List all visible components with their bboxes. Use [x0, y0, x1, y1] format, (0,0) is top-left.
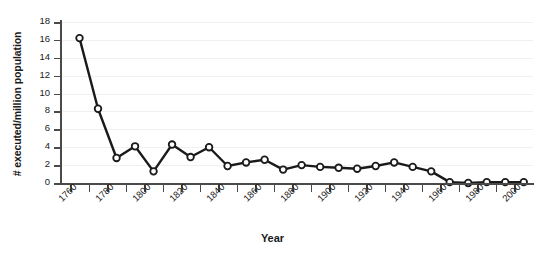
y-tick-mark — [54, 76, 60, 78]
x-tick-mark — [237, 185, 239, 192]
y-tick-mark — [54, 22, 60, 24]
y-tick-label: 2 — [30, 158, 50, 169]
y-tick-label: 12 — [30, 69, 50, 80]
x-tick-mark — [422, 185, 424, 192]
data-point-marker — [113, 155, 120, 162]
y-tick-mark — [54, 40, 60, 42]
data-point-marker — [280, 166, 287, 173]
x-tick-mark — [311, 185, 313, 192]
data-point-marker — [224, 163, 231, 170]
y-tick-label: 6 — [30, 122, 50, 133]
data-point-marker — [169, 141, 176, 148]
x-tick-mark — [274, 185, 276, 192]
data-point-marker — [261, 156, 268, 163]
x-tick-mark — [496, 185, 498, 192]
y-tick-mark — [54, 129, 60, 131]
data-point-marker — [76, 35, 83, 42]
data-point-marker — [391, 159, 398, 166]
y-tick-mark — [54, 58, 60, 60]
data-point-marker — [95, 105, 102, 112]
data-point-marker — [428, 168, 435, 175]
x-tick-mark — [126, 185, 128, 192]
y-tick-mark — [54, 147, 60, 149]
data-point-marker — [206, 144, 213, 151]
data-point-marker — [335, 164, 342, 171]
y-tick-mark — [54, 94, 60, 96]
y-tick-label: 18 — [30, 15, 50, 26]
y-tick-label: 16 — [30, 33, 50, 44]
y-axis-title: # executed/million population — [11, 9, 23, 199]
y-tick-label: 10 — [30, 87, 50, 98]
chart-container: # executed/million population 0246810121… — [0, 0, 545, 256]
x-axis-title: Year — [0, 232, 545, 244]
y-tick-label: 4 — [30, 140, 50, 151]
data-point-marker — [372, 163, 379, 170]
x-tick-mark — [459, 185, 461, 192]
data-series-line — [61, 22, 533, 183]
y-tick-label: 14 — [30, 51, 50, 62]
x-tick-mark — [348, 185, 350, 192]
y-tick-mark — [54, 165, 60, 167]
x-tick-mark — [385, 185, 387, 192]
data-point-marker — [409, 164, 416, 171]
x-tick-mark — [200, 185, 202, 192]
y-tick-label: 8 — [30, 104, 50, 115]
data-point-marker — [187, 154, 194, 161]
x-tick-mark — [163, 185, 165, 192]
data-point-marker — [298, 162, 305, 169]
data-point-marker — [150, 168, 157, 175]
x-tick-mark — [89, 185, 91, 192]
data-point-marker — [243, 159, 250, 166]
data-point-marker — [354, 165, 361, 172]
y-tick-mark — [54, 183, 60, 185]
data-point-marker — [132, 143, 139, 150]
y-tick-mark — [54, 111, 60, 113]
y-tick-label: 0 — [30, 176, 50, 187]
data-point-marker — [317, 164, 324, 171]
y-axis-line — [60, 20, 62, 185]
plot-area — [61, 22, 533, 183]
